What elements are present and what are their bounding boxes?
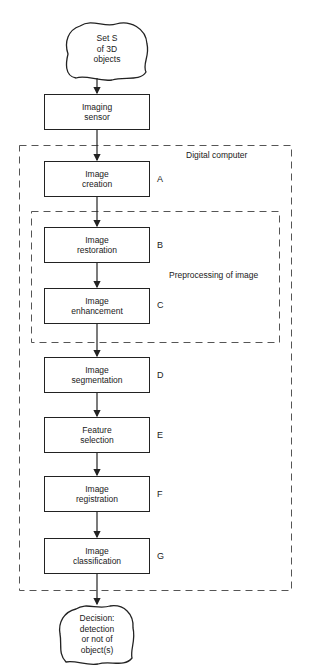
step-box-a: Image creation	[44, 161, 150, 197]
box-line: Image	[85, 365, 109, 376]
box-line: restoration	[77, 245, 117, 256]
end-node-line: Decision:	[62, 613, 132, 624]
step-tag-c: C	[157, 300, 164, 310]
box-line: Image	[85, 169, 109, 180]
box-line: Image	[85, 235, 109, 246]
box-line: Image	[85, 484, 109, 495]
imaging-sensor-box: Imaging sensor	[44, 94, 150, 130]
end-node: Decision: detection or not of object(s)	[62, 613, 132, 655]
start-node-line: of 3D	[72, 44, 142, 55]
end-node-line: or not of	[62, 634, 132, 645]
end-node-line: detection	[62, 624, 132, 635]
box-line: creation	[82, 179, 112, 190]
start-node-line: objects	[72, 54, 142, 65]
step-box-c: Image enhancement	[44, 288, 150, 324]
step-tag-f: F	[157, 489, 163, 499]
start-node-line: Set S	[72, 33, 142, 44]
step-tag-d: D	[157, 370, 164, 380]
start-node: Set S of 3D objects	[72, 33, 142, 65]
step-tag-g: G	[157, 551, 164, 561]
box-line: Image	[85, 296, 109, 307]
step-box-b: Image restoration	[44, 227, 150, 263]
step-tag-e: E	[157, 430, 163, 440]
box-line: Imaging	[82, 102, 112, 113]
step-tag-a: A	[157, 174, 163, 184]
box-line: enhancement	[71, 306, 123, 317]
box-line: selection	[80, 435, 114, 446]
box-line: sensor	[84, 112, 110, 123]
box-line: Image	[85, 546, 109, 557]
step-box-e: Feature selection	[44, 417, 150, 453]
box-line: registration	[76, 494, 118, 505]
step-box-f: Image registration	[44, 476, 150, 512]
box-line: Feature	[82, 425, 111, 436]
step-box-d: Image segmentation	[44, 357, 150, 393]
box-line: segmentation	[71, 375, 122, 386]
step-box-g: Image classification	[44, 538, 150, 574]
digital-computer-label: Digital computer	[186, 150, 247, 160]
preprocessing-label: Preprocessing of image	[169, 270, 258, 280]
step-tag-b: B	[157, 240, 163, 250]
box-line: classification	[73, 556, 121, 567]
end-node-line: object(s)	[62, 645, 132, 656]
